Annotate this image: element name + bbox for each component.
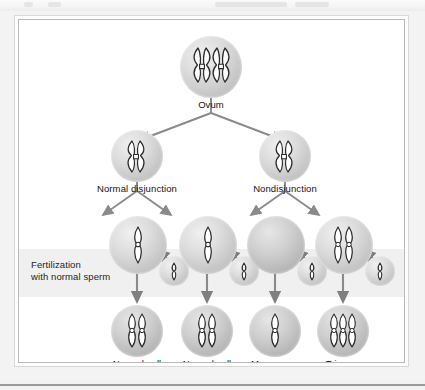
cell-zygote-normal-2: [181, 305, 233, 357]
chromosome-sperm-4: [365, 256, 395, 286]
chromosome-group-nondisjunction: [259, 130, 311, 182]
cell-zygote-trisome: [317, 305, 369, 357]
label-nondisjunction: Nondisjunction: [233, 183, 337, 194]
label-zygote-3: Monosome: [240, 358, 310, 363]
cell-nondisjunction: [259, 130, 311, 182]
label-ovum: Ovum: [180, 99, 242, 110]
scan-header-smudge: [0, 0, 425, 11]
cell-ovum: [180, 36, 242, 98]
smudge-mark-2: [48, 2, 61, 7]
smudge-mark-1: [24, 2, 33, 7]
smudge-mark-4: [295, 2, 329, 7]
cell-sperm-4: [365, 256, 395, 286]
label-normal-disjunction: Normal disjunction: [82, 183, 192, 194]
chromosome-group-zygote-3: [249, 305, 301, 357]
chromosome-group-zygote-1: [111, 305, 163, 357]
chromosome-group-zygote-2: [181, 305, 233, 357]
chromosome-group-zygote-4: [317, 305, 369, 357]
diagram-frame: Fertilization with normal sperm: [18, 19, 405, 363]
label-zygote-4: Trisome: [308, 358, 378, 363]
cell-normal-disjunction: [111, 130, 163, 182]
chromosome-group-ovum: [180, 36, 242, 98]
smudge-mark-3: [215, 2, 287, 7]
figure-plate: Fertilization with normal sperm: [0, 11, 425, 379]
chromosome-group-normal-disjunction: [111, 130, 163, 182]
cell-zygote-monosome: [249, 305, 301, 357]
page-bottom-rule: [0, 384, 425, 386]
label-zygote-2: Normal cell: [172, 358, 242, 363]
label-zygote-1: Normal cell: [102, 358, 172, 363]
cell-zygote-normal-1: [111, 305, 163, 357]
figure-page: Fertilization with normal sperm: [0, 0, 425, 390]
